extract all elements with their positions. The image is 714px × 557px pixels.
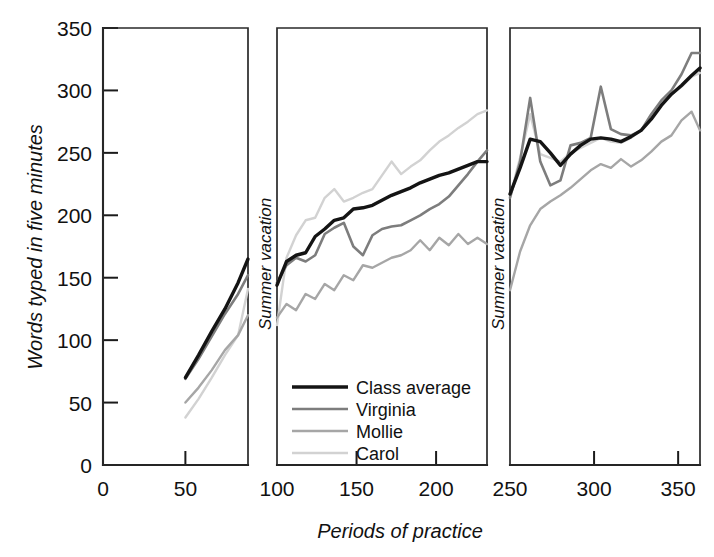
x-axis-label: Periods of practice <box>317 520 483 542</box>
x-tick-label: 300 <box>577 477 612 500</box>
summer-vacation-label-2: Summer vacation <box>489 198 508 330</box>
legend-label-class-average: Class average <box>356 378 471 398</box>
y-axis-label: Words typed in five minutes <box>24 124 46 370</box>
y-tick-label: 50 <box>69 392 92 415</box>
series-line-carol <box>277 110 487 325</box>
legend-label-virginia: Virginia <box>356 400 417 420</box>
series-line-class-average <box>277 162 487 286</box>
summer-vacation-label-1: Summer vacation <box>256 198 275 330</box>
x-tick-label: 100 <box>259 477 294 500</box>
y-tick-label: 350 <box>57 17 92 40</box>
y-tick-label: 150 <box>57 267 92 290</box>
series-line-class-average <box>185 259 248 378</box>
y-tick-label: 250 <box>57 142 92 165</box>
x-tick-label: 250 <box>492 477 527 500</box>
y-tick-label: 300 <box>57 79 92 102</box>
chart-figure: 050100150200250300350 050100150200250300… <box>0 0 714 557</box>
series-line-carol <box>185 289 248 418</box>
x-tick-label: 150 <box>339 477 374 500</box>
x-axis-tick-labels: 050100150200250300350 <box>97 477 696 500</box>
x-tick-label: 0 <box>97 477 109 500</box>
legend-label-mollie: Mollie <box>356 422 403 442</box>
y-tick-label: 0 <box>80 454 92 477</box>
x-tick-label: 200 <box>419 477 454 500</box>
y-tick-label: 100 <box>57 329 92 352</box>
panel-frame-1 <box>103 28 248 465</box>
y-tick-label: 200 <box>57 204 92 227</box>
y-axis-tick-labels: 050100150200250300350 <box>57 17 92 477</box>
chart-legend: Class averageVirginiaMollieCarol <box>292 378 471 464</box>
x-tick-label: 50 <box>174 477 197 500</box>
x-tick-label: 350 <box>661 477 696 500</box>
typing-practice-line-chart: 050100150200250300350 050100150200250300… <box>0 0 714 557</box>
legend-label-carol: Carol <box>356 444 399 464</box>
series-line-virginia <box>510 53 700 198</box>
series-line-class-average <box>510 68 700 194</box>
